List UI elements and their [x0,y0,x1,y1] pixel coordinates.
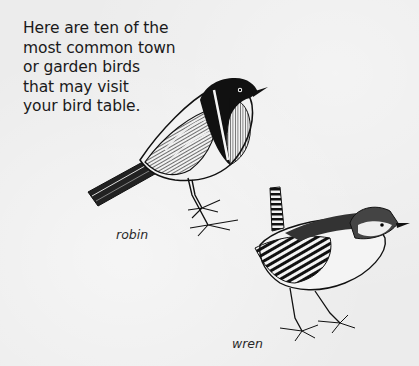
wren-caption: wren [232,336,263,351]
wren-illustration-icon [240,183,410,343]
intro-line: most common town [23,39,183,59]
intro-line: Here are ten of the [23,19,183,39]
book-page: Here are ten of the most common town or … [0,0,419,366]
robin-caption: robin [116,227,148,242]
